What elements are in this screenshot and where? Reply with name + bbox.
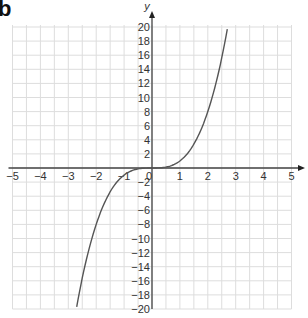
x-tick-label: 2	[205, 170, 211, 182]
y-tick-label: −18	[131, 289, 150, 301]
x-tick-label: 1	[177, 170, 183, 182]
y-tick-label: 8	[144, 106, 150, 118]
y-tick-label: 18	[138, 35, 150, 47]
y-tick-label: 4	[144, 134, 150, 146]
y-tick-label: −20	[131, 303, 150, 315]
x-tick-label: −2	[90, 170, 103, 182]
y-tick-label: −8	[137, 218, 150, 230]
x-tick-label: −5	[6, 170, 19, 182]
y-tick-label: 16	[138, 49, 150, 61]
y-tick-label: 14	[138, 63, 150, 75]
y-tick-label: 12	[138, 77, 150, 89]
y-axis-label: y	[143, 0, 151, 12]
y-tick-label: 2	[144, 148, 150, 160]
y-tick-label: −16	[131, 275, 150, 287]
y-tick-label: −10	[131, 233, 150, 245]
x-tick-label: 5	[288, 170, 294, 182]
y-tick-label: −4	[137, 190, 150, 202]
y-tick-label: 6	[144, 120, 150, 132]
y-tick-label: 20	[138, 21, 150, 33]
cubic-chart: y−5−4−3−2−10123452018161412108642−2−4−6−…	[0, 0, 308, 318]
x-tick-label: −4	[34, 170, 47, 182]
x-tick-label: 4	[261, 170, 267, 182]
y-tick-label: −6	[137, 204, 150, 216]
y-tick-label: −12	[131, 247, 150, 259]
y-tick-label: −2	[137, 176, 150, 188]
y-axis-arrow-icon	[149, 11, 155, 18]
x-tick-label: 3	[233, 170, 239, 182]
x-axis-arrow-icon	[298, 165, 305, 171]
x-tick-label: −3	[62, 170, 75, 182]
y-tick-label: 10	[138, 92, 150, 104]
y-tick-label: −14	[131, 261, 150, 273]
